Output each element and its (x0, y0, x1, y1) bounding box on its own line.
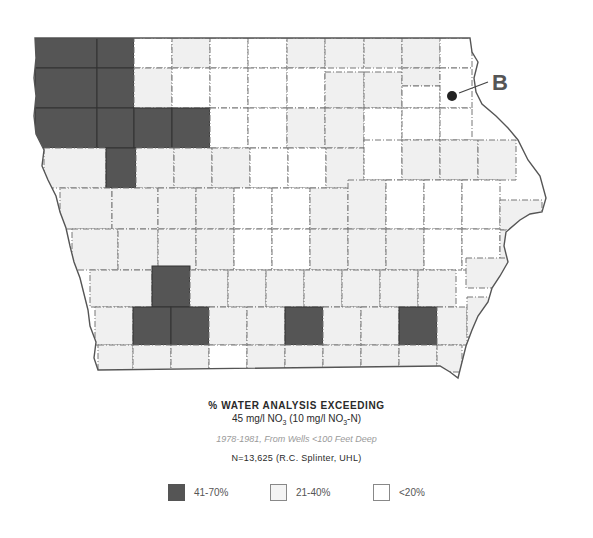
county-medium (112, 188, 158, 229)
county-medium (325, 108, 364, 148)
county-medium (440, 140, 478, 180)
county-low (234, 188, 272, 229)
map-title-line2: 45 mg/l NO3 (10 mg/l NO3-N) (0, 413, 593, 426)
county-low (440, 38, 472, 68)
county-medium (478, 140, 516, 180)
map-subtitle: 1978-1981, From Wells <100 Feet Deep (0, 434, 593, 444)
county-medium (467, 297, 505, 337)
county-medium (95, 307, 133, 345)
county-medium (418, 270, 456, 307)
county-medium (402, 68, 440, 86)
county-medium (44, 148, 106, 188)
county-medium (98, 345, 133, 372)
county-high (35, 108, 97, 148)
county-medium (437, 345, 462, 372)
county-medium (364, 38, 402, 68)
county-medium (342, 270, 380, 307)
county-medium (134, 68, 172, 108)
county-high (97, 108, 134, 148)
county-medium (228, 270, 266, 307)
county-medium (304, 270, 342, 307)
county-low (172, 68, 210, 108)
county-low (272, 188, 310, 229)
county-medium (158, 229, 196, 270)
county-low (210, 108, 248, 148)
county-high (97, 38, 134, 68)
county-medium (247, 307, 285, 345)
county-medium (190, 270, 228, 307)
legend-label: 41-70% (194, 487, 228, 498)
county-medium (133, 345, 171, 372)
legend-swatch-medium (270, 484, 287, 501)
legend-item-medium: 21-40% (270, 484, 330, 501)
county-high (171, 307, 209, 345)
county-low (462, 180, 500, 229)
county-medium (118, 229, 158, 270)
county-medium (158, 188, 196, 229)
county-low (250, 148, 288, 188)
legend-swatch-high (168, 484, 185, 501)
legend-label: 21-40% (296, 487, 330, 498)
county-low (440, 68, 472, 108)
county-medium (310, 188, 348, 229)
county-medium (174, 148, 212, 188)
county-medium (72, 229, 118, 270)
county-low (134, 38, 172, 68)
county-high (134, 108, 172, 148)
county-low (402, 86, 440, 108)
county-medium (399, 345, 437, 372)
county-low (424, 229, 462, 270)
county-medium (196, 229, 234, 270)
county-medium (402, 38, 440, 68)
county-medium (196, 188, 234, 229)
county-low (440, 108, 472, 140)
legend-item-low: <20% (373, 484, 425, 501)
legend-label: <20% (399, 487, 425, 498)
county-low (424, 180, 462, 229)
county-low (272, 229, 310, 270)
county-medium (500, 200, 542, 230)
county-medium (287, 108, 325, 148)
county-low (234, 229, 272, 270)
county-medium (90, 270, 152, 307)
county-low (248, 108, 287, 148)
county-low (210, 38, 248, 68)
county-high (35, 68, 97, 108)
county-medium (310, 229, 348, 270)
legend-swatch-low (373, 484, 390, 501)
county-low (248, 68, 287, 108)
county-high (97, 68, 134, 108)
county-high (285, 307, 323, 345)
county-medium (402, 140, 440, 180)
county-medium (325, 72, 364, 108)
county-high (35, 38, 97, 68)
county-high (133, 307, 171, 345)
county-medium (60, 188, 112, 229)
county-low (287, 68, 325, 108)
county-medium (348, 229, 386, 270)
map-title: % WATER ANALYSIS EXCEEDING (0, 400, 593, 411)
county-medium (323, 307, 361, 345)
county-medium (209, 307, 247, 345)
county-medium (361, 307, 399, 345)
county-low (288, 148, 326, 188)
county-medium (287, 38, 325, 68)
county-medium (172, 38, 210, 68)
county-high (172, 108, 210, 148)
county-medium (348, 180, 386, 229)
county-high (152, 266, 190, 307)
legend: 41-70% 21-40% <20% (0, 484, 593, 506)
county-low (402, 108, 440, 140)
county-medium (325, 38, 364, 68)
county-medium (136, 148, 174, 188)
county-medium (386, 229, 424, 270)
county-high (106, 148, 136, 188)
county-low (248, 38, 287, 68)
county-medium (380, 270, 418, 307)
marker-label-b: B (492, 70, 508, 95)
legend-item-high: 41-70% (168, 484, 228, 501)
county-medium (364, 72, 402, 108)
county-low (386, 180, 424, 229)
county-low (210, 68, 248, 108)
county-medium (171, 345, 209, 372)
